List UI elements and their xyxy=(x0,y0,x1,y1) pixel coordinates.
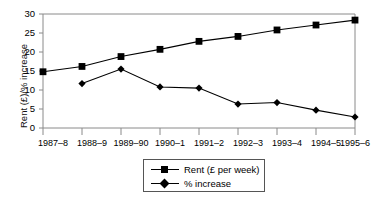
square-marker xyxy=(274,27,281,34)
legend-label-rent: Rent (£ per week) xyxy=(184,164,260,175)
x-tick-label-9: 1995–6 xyxy=(327,138,378,148)
square-marker xyxy=(118,53,125,60)
diamond-marker xyxy=(312,107,319,114)
y-tick-label-0: 0 xyxy=(19,123,35,133)
square-marker xyxy=(79,63,86,70)
square-marker xyxy=(313,22,320,29)
diamond-marker xyxy=(156,83,163,90)
y-tick-label-30: 30 xyxy=(19,9,35,19)
data-series-layer xyxy=(40,17,359,121)
diamond-marker-icon xyxy=(160,178,170,188)
legend-label-percent-increase: % increase xyxy=(184,178,231,189)
y-tick-label-15: 15 xyxy=(19,66,35,76)
y-tick-label-25: 25 xyxy=(19,28,35,38)
legend-sample-percent-increase xyxy=(150,178,180,190)
square-marker xyxy=(40,68,47,75)
y-tick-label-5: 5 xyxy=(19,104,35,114)
diamond-marker xyxy=(117,66,124,73)
legend-item-percent-increase: % increase xyxy=(144,176,264,191)
diamond-marker xyxy=(195,85,202,92)
chart-legend: Rent (£ per week) % increase xyxy=(143,159,265,192)
square-marker xyxy=(157,46,164,53)
y-tick-label-20: 20 xyxy=(19,47,35,57)
chart-figure: Rent (£)/% increase xyxy=(0,0,378,200)
diamond-marker xyxy=(234,100,241,107)
square-marker xyxy=(196,38,203,45)
diamond-marker xyxy=(351,113,358,120)
diamond-marker xyxy=(273,99,280,106)
diamond-marker xyxy=(78,80,85,87)
square-marker xyxy=(235,33,242,40)
x-axis-ticks xyxy=(43,128,355,135)
square-marker xyxy=(352,17,359,24)
legend-sample-rent xyxy=(150,164,180,176)
axis-frame xyxy=(43,14,355,128)
legend-item-rent: Rent (£ per week) xyxy=(144,162,264,177)
series-line-1 xyxy=(43,20,355,72)
square-marker-icon xyxy=(161,166,168,173)
y-tick-label-10: 10 xyxy=(19,85,35,95)
